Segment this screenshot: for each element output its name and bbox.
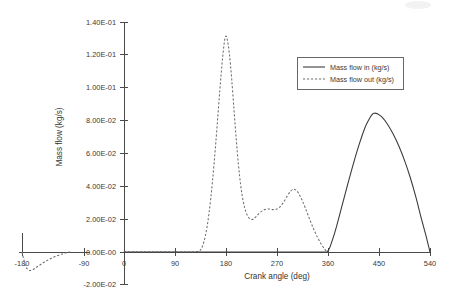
y-tick-label: 1.00E-01 xyxy=(86,83,116,92)
legend-label-mass-flow-out: Mass flow out (kg/s) xyxy=(330,75,394,84)
y-tick-label: 1.20E-01 xyxy=(86,50,116,59)
chart-plot-area: -2.00E-020.00E-002.00E-024.00E-026.00E-0… xyxy=(0,0,450,304)
series-mass-flow-in xyxy=(124,113,430,252)
y-tick-label: 4.00E-02 xyxy=(86,182,116,191)
x-left-tick-label: -180 xyxy=(15,259,30,268)
x-tick-label: 0 xyxy=(122,259,126,268)
x-tick-label: 270 xyxy=(271,259,283,268)
y-tick-label: 8.00E-02 xyxy=(86,116,116,125)
chart-figure: -2.00E-020.00E-002.00E-024.00E-026.00E-0… xyxy=(0,0,450,304)
x-tick-label: 180 xyxy=(220,259,232,268)
x-tick-label: 450 xyxy=(373,259,385,268)
y-tick-label: 0.00E-00 xyxy=(86,248,116,257)
x-axis-title: Crank angle (deg) xyxy=(244,272,310,281)
y-axis-title: Mass flow (kg/s) xyxy=(55,107,64,166)
y-tick-label: -2.00E-02 xyxy=(84,280,116,289)
legend-box xyxy=(297,57,403,89)
legend-label-mass-flow-in: Mass flow in (kg/s) xyxy=(330,63,390,72)
x-tick-label: 540 xyxy=(424,259,436,268)
x-left-tick-label-group: -180-90 xyxy=(15,259,90,268)
x-left-tick-label: -90 xyxy=(79,259,90,268)
y-tick-label: 1.40E-01 xyxy=(86,18,116,27)
x-tick-label-group: 090180270360450540 xyxy=(122,259,436,268)
y-tick-label: 2.00E-02 xyxy=(86,215,116,224)
chart-legend: Mass flow in (kg/s) Mass flow out (kg/s) xyxy=(297,57,403,89)
x-tick-label: 360 xyxy=(322,259,334,268)
y-tick-label: 6.00E-02 xyxy=(86,149,116,158)
y-tick-label-group: -2.00E-020.00E-002.00E-024.00E-026.00E-0… xyxy=(84,18,116,290)
x-tick-label: 90 xyxy=(171,259,179,268)
scan-artifact xyxy=(405,1,431,9)
